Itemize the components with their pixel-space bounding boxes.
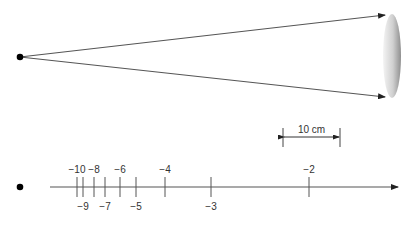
tick-label: −8 <box>88 164 100 175</box>
top-diagram <box>17 14 401 98</box>
source-point <box>17 54 24 61</box>
tick-label: −7 <box>99 201 111 212</box>
scale-bar-label: 10 cm <box>298 124 325 135</box>
ray-lower <box>20 57 385 97</box>
tick-label: −2 <box>303 164 315 175</box>
number-line-point <box>17 184 24 191</box>
tick-label: −3 <box>205 201 217 212</box>
tick-label: −9 <box>77 201 89 212</box>
optics-diagram: 10 cm −10−9−8−7−6−5−4−3−2 <box>0 0 416 225</box>
tick-label: −6 <box>114 164 126 175</box>
ray-upper <box>20 15 385 57</box>
tick-label: −5 <box>130 201 142 212</box>
lens-shape <box>383 14 401 98</box>
number-line: −10−9−8−7−6−5−4−3−2 <box>17 164 398 212</box>
tick-label: −10 <box>69 164 86 175</box>
tick-label: −4 <box>159 164 171 175</box>
scale-bar: 10 cm <box>283 124 340 147</box>
